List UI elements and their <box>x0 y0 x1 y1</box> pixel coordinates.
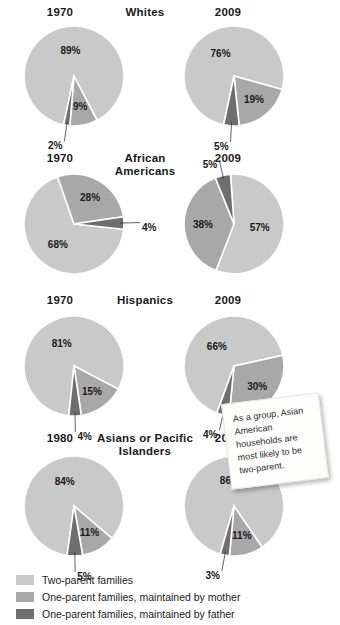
pie-chart-2009-right: 76%19%5% <box>176 22 326 152</box>
pie-chart-1970-left: 89%9%2% <box>16 22 166 152</box>
year-label-left: 1970 <box>30 294 90 307</box>
slice-value-label: 84% <box>55 476 75 487</box>
callout-sticky-note: As a group, Asian American households ar… <box>221 392 329 489</box>
callout-text: As a group, Asian American households ar… <box>222 393 326 478</box>
slice-value-label: 89% <box>60 45 80 56</box>
slice-value-label: 11% <box>232 530 252 541</box>
group-name-label: Hispanics <box>95 294 195 307</box>
slice-value-label: 19% <box>244 94 264 105</box>
legend-item-two-parent: Two-parent families <box>16 572 316 588</box>
slice-value-label: 81% <box>52 338 72 349</box>
slice-value-label: 57% <box>250 222 270 233</box>
slice-value-label: 28% <box>80 192 100 203</box>
year-label-right: 2009 <box>198 294 258 307</box>
legend-swatch-mother <box>16 592 34 602</box>
slice-value-label: 76% <box>211 48 231 59</box>
slice-value-label: 11% <box>80 527 100 538</box>
legend-label-mother: One-parent families, maintained by mothe… <box>42 591 240 603</box>
pie-chart-infographic: 1970Whites200989%9%2%76%19%5%1970African… <box>0 0 340 625</box>
year-label-left: 1970 <box>30 152 90 165</box>
slice-value-label: 66% <box>207 341 227 352</box>
pie-chart-1970-left: 81%15%4% <box>16 312 166 442</box>
legend: Two-parent families One-parent families,… <box>16 572 316 623</box>
slice-value-label: 9% <box>73 101 88 112</box>
year-label-left: 1970 <box>30 6 90 19</box>
legend-swatch-two-parent <box>16 575 34 585</box>
year-label-left: 1980 <box>30 432 90 445</box>
slice-value-label: 15% <box>82 386 102 397</box>
legend-swatch-father <box>16 609 34 619</box>
slice-value-label: 68% <box>48 239 68 250</box>
slice-value-label: 5% <box>203 159 218 170</box>
pie-chart-1970-left: 68%28%4% <box>16 170 166 300</box>
year-label-right: 2009 <box>198 6 258 19</box>
legend-item-father: One-parent families, maintained by fathe… <box>16 606 316 622</box>
slice-value-label: 30% <box>247 381 267 392</box>
legend-label-two-parent: Two-parent families <box>42 574 133 586</box>
legend-item-mother: One-parent families, maintained by mothe… <box>16 589 316 605</box>
legend-label-father: One-parent families, maintained by fathe… <box>42 608 235 620</box>
slice-value-label: 38% <box>193 219 213 230</box>
pie-chart-1980-left: 84%11%5% <box>16 452 166 582</box>
group-name-label: Whites <box>95 6 195 19</box>
slice-value-label: 4% <box>142 222 157 233</box>
pie-chart-2009-right: 57%38%5% <box>176 170 326 300</box>
